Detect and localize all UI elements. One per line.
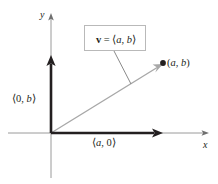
vector-callout-text: v = ⟨a, b⟩ (85, 33, 147, 45)
y-component-close: ⟩ (32, 93, 36, 104)
x-component-close: ⟩ (112, 137, 116, 148)
terminal-point-dot (160, 60, 166, 66)
resultant-vector-line (51, 67, 158, 133)
vector-close: ⟩ (132, 34, 136, 45)
y-component-label: ⟨0, b⟩ (12, 94, 36, 105)
terminal-point-close: ) (186, 57, 190, 68)
vector-equals: = (101, 34, 112, 45)
x-component-label: ⟨a, 0⟩ (92, 138, 116, 149)
y-axis-label: y (40, 10, 44, 20)
vector-diagram: y x ⟨0, b⟩ ⟨a, 0⟩ (a, b) v = ⟨a, b⟩ (0, 0, 218, 184)
x-axis-label: x (203, 140, 207, 150)
terminal-point-label: (a, b) (167, 58, 190, 69)
vector-callout-box: v = ⟨a, b⟩ (84, 25, 146, 51)
callout-leader-line (114, 51, 131, 84)
